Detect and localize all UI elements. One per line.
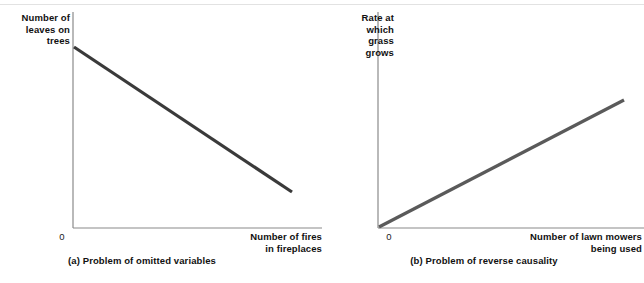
panel-omitted-variables: Number of leaves on trees 0 Number of fi…	[0, 0, 322, 283]
data-line-negative-slope	[74, 47, 292, 192]
x-axis-label-b: Number of lawn mowers being used	[442, 231, 642, 254]
panel-caption-b: (b) Problem of reverse causality	[342, 255, 626, 266]
figure-root: Number of leaves on trees 0 Number of fi…	[0, 0, 644, 283]
origin-label-a: 0	[55, 231, 69, 242]
y-axis-label-b: Rate at which grass grows	[294, 12, 394, 58]
x-axis-label-a: Number of fires in fireplaces	[142, 231, 322, 254]
data-line-positive-slope	[379, 100, 624, 227]
y-axis-label-a: Number of leaves on trees	[0, 12, 70, 47]
origin-label-b: 0	[382, 231, 396, 242]
panel-caption-a: (a) Problem of omitted variables	[0, 255, 284, 266]
panel-reverse-causality: Rate at which grass grows 0 Number of la…	[322, 0, 644, 283]
